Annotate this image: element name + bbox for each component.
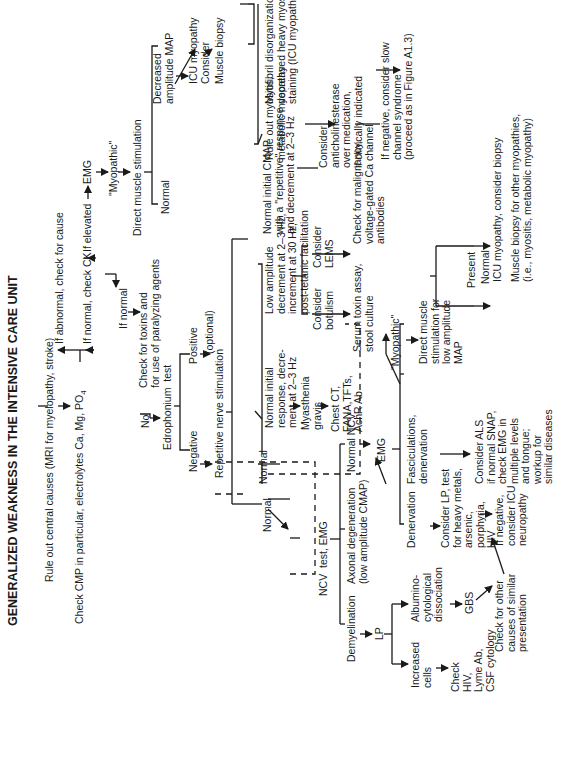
normal-initial-cmap: Normal initial CMAP with a "repetitive" … xyxy=(262,107,297,234)
direct-muscle-stimulation: Direct muscle stimulation xyxy=(132,119,144,236)
no-label: No xyxy=(140,415,152,428)
increased-cells: Increased cells xyxy=(410,642,433,688)
consider-lems: Consider LEMS xyxy=(312,226,335,268)
positive-label: Positive xyxy=(188,327,200,364)
decreased-amplitude-map: Decreased amplitude MAP xyxy=(152,33,175,104)
check-malignancy: Check for malignancy, voltage-gated Ca c… xyxy=(352,124,387,244)
demyelination: Demyelination xyxy=(346,595,358,662)
myopathic-node: "Myopathic" xyxy=(108,141,120,196)
negative-label: Negative xyxy=(188,431,200,472)
if-normal: If normal xyxy=(118,288,130,329)
if-abnormal: If abnormal, check for cause xyxy=(54,212,66,344)
fasciculations: Fasciculations, denervation xyxy=(406,415,429,484)
consider-botulism: Consider botulism xyxy=(312,288,335,330)
page-title: GENERALIZED WEAKNESS IN THE INTENSIVE CA… xyxy=(8,275,20,626)
myasthenia-gravis: Myasthenia gravis xyxy=(300,376,323,430)
ncv-test-emg: NCV test, EMG xyxy=(318,521,330,596)
myopathic-mid: "Myopathic" xyxy=(390,315,402,370)
repetitive-nerve-stimulation: Repetitive nerve stimulation xyxy=(214,349,226,478)
check-toxins: Check for toxins and for use of paralyzi… xyxy=(138,259,161,388)
check-hiv-lyme: Check HIV, Lyme Ab, CSF cytology xyxy=(450,630,496,692)
emg-node: EMG xyxy=(82,160,94,184)
muscle-biopsy: Muscle biopsy xyxy=(214,17,226,84)
normal-dm-label: Normal xyxy=(480,250,492,284)
optional-label: (optional) xyxy=(204,310,216,354)
axonal-degeneration: Axonal degeneration (low amplitude CMAP) xyxy=(346,480,369,584)
serum-toxin-assay: Serum toxin assay, stool culture xyxy=(352,263,375,352)
direct-muscle-low-map: Direct muscle stimulation for low amplit… xyxy=(418,299,464,364)
edrophonium-test: Edrophonium test xyxy=(162,365,174,450)
normal-initial-response: Normal initial response, decre- ment at … xyxy=(264,349,299,428)
normal-ncv: Normal NCV xyxy=(346,413,358,472)
albumino-cytological: Albumino- cytological dissociation xyxy=(410,567,445,622)
normal-rns-label: Normal xyxy=(258,450,270,484)
myofibril-disorganization: Myofibril disorganization, decreased hea… xyxy=(264,0,299,104)
normal-rns-label-2: Normal xyxy=(262,498,274,532)
consider-als: Consider ALS if normal SNAP, check EMG i… xyxy=(474,409,555,484)
denervation: Denervation xyxy=(406,491,418,548)
normal-label: Normal xyxy=(160,180,172,214)
icu-neuropathy: If negative, consider ICU neuropathy xyxy=(494,485,529,546)
present-label: Present xyxy=(466,252,478,288)
rule-out-central-causes: Rule out central causes (MRI for myelopa… xyxy=(44,338,56,582)
flowchart-canvas: GENERALIZED WEAKNESS IN THE INTENSIVE CA… xyxy=(0,0,561,784)
emg-mid: EMG xyxy=(376,438,388,462)
if-elevated: If elevated xyxy=(82,204,94,252)
icu-myopathy-consider: ICU myopathy Consider xyxy=(188,17,211,84)
icu-myopathy-biopsy: ICU myopathy, consider biopsy xyxy=(492,137,504,282)
if-normal-check-ck: If normal, check CK xyxy=(82,252,94,344)
check-other-causes: Check for other causes of similar presen… xyxy=(494,574,529,652)
gbs-node: GBS xyxy=(464,592,476,614)
check-cmp: Check CMP in particular, electrolytes Ca… xyxy=(74,390,90,624)
muscle-biopsy-other: Muscle biopsy for other myopathies, (i.e… xyxy=(510,114,533,282)
lp-node: LP xyxy=(374,627,386,640)
